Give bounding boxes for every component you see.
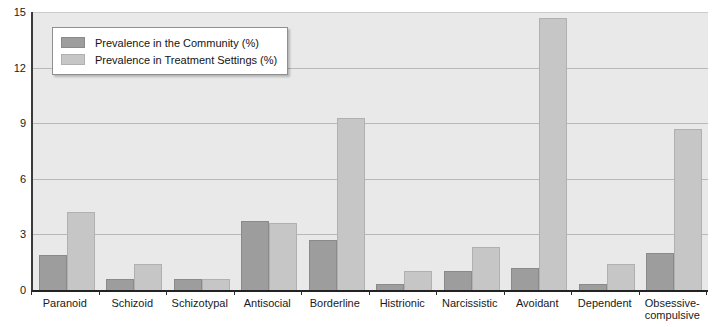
bar-group — [641, 12, 709, 290]
x-axis-labels: ParanoidSchizoidSchizotypalAntisocialBor… — [31, 295, 706, 327]
bar-community — [309, 240, 337, 290]
bar-group — [438, 12, 506, 290]
chart-legend: Prevalence in the Community (%)Prevalenc… — [52, 27, 288, 75]
bar-group — [573, 12, 641, 290]
x-axis-category-label: Schizoid — [99, 295, 167, 327]
bar-community — [444, 271, 472, 290]
bar-group — [371, 12, 439, 290]
legend-item: Prevalence in Treatment Settings (%) — [61, 51, 277, 68]
y-tick-label: 15 — [4, 7, 26, 17]
bar-treatment — [67, 212, 95, 290]
legend-item: Prevalence in the Community (%) — [61, 34, 277, 51]
y-tick-label: 3 — [4, 229, 26, 239]
x-axis-category-label: Paranoid — [31, 295, 99, 327]
y-tick-label: 12 — [4, 63, 26, 73]
x-axis-category-label: Dependent — [571, 295, 639, 327]
x-tick — [706, 290, 707, 295]
x-axis-category-label: Schizotypal — [166, 295, 234, 327]
x-axis-category-label: Antisocial — [234, 295, 302, 327]
bar-treatment — [472, 247, 500, 290]
bar-community — [511, 268, 539, 290]
y-tick-label: 9 — [4, 118, 26, 128]
legend-label: Prevalence in the Community (%) — [95, 37, 259, 49]
bar-group — [506, 12, 574, 290]
bar-chart: 03691215 ParanoidSchizoidSchizotypalAnti… — [0, 0, 713, 327]
legend-swatch-treatment — [61, 54, 85, 65]
y-tick-label: 6 — [4, 174, 26, 184]
bar-group — [303, 12, 371, 290]
x-axis-category-label: Narcissistic — [436, 295, 504, 327]
bar-community — [174, 279, 202, 290]
x-axis-category-label: Avoidant — [504, 295, 572, 327]
bar-community — [106, 279, 134, 290]
legend-swatch-community — [61, 37, 85, 48]
y-axis: 03691215 — [0, 0, 26, 327]
y-tick-label: 0 — [4, 285, 26, 295]
x-axis-category-label: Obsessive-compulsive — [639, 295, 707, 327]
bar-treatment — [134, 264, 162, 290]
bar-treatment — [337, 118, 365, 290]
legend-label: Prevalence in Treatment Settings (%) — [95, 54, 277, 66]
bar-treatment — [269, 223, 297, 290]
bar-treatment — [607, 264, 635, 290]
bar-treatment — [202, 279, 230, 290]
bar-treatment — [539, 18, 567, 290]
x-axis-category-label: Histrionic — [369, 295, 437, 327]
bar-community — [646, 253, 674, 290]
bar-treatment — [404, 271, 432, 290]
bar-community — [241, 221, 269, 290]
x-axis-category-label: Borderline — [301, 295, 369, 327]
bar-community — [39, 255, 67, 290]
bar-treatment — [674, 129, 702, 290]
